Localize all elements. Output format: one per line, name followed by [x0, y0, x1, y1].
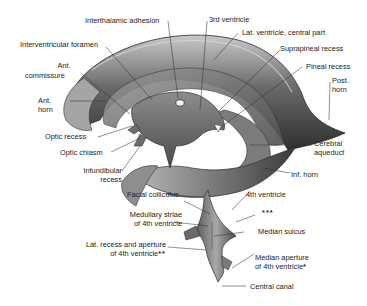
- label-lat-ventricle-central-part: Lat. ventricle, central part: [242, 28, 325, 37]
- label-medullary-striae: Medullary striae of 4th ventricle: [112, 210, 182, 228]
- double-asterisk-mark: **: [158, 249, 166, 258]
- label-median-sulcus: Median sulcus: [258, 227, 305, 236]
- label-cerebral-aqueduct: Cerebral aqueduct: [314, 139, 344, 157]
- single-asterisk-mark: *: [303, 262, 306, 271]
- label-inf-horn: Inf. horn: [291, 170, 318, 179]
- third-ventricle-shape: [128, 92, 225, 168]
- interthalamic-adhesion-hole: [176, 100, 184, 106]
- ventricular-system-diagram: Interthalamic adhesion 3rd ventricle Int…: [0, 0, 367, 306]
- label-ant-horn: Ant. horn: [38, 96, 53, 114]
- label-interventricular-foramen: Interventricular foramen: [20, 40, 98, 49]
- label-suprapineal-recess: Suprapineal recess: [280, 44, 343, 53]
- label-fourth-ventricle: 4th ventricle: [246, 190, 286, 199]
- label-interthalamic-adhesion: Interthalamic adhesion: [85, 16, 159, 25]
- fourth-ventricle-shape: [184, 190, 236, 282]
- label-post-horn: Post. horn: [332, 76, 349, 94]
- label-facial-colliculus: Facial colliculus: [127, 190, 179, 199]
- label-triple-asterisk: ***: [262, 208, 274, 217]
- label-ant-commissure: Ant.: [52, 61, 76, 70]
- label-lat-recess-aperture: Lat. recess and aperture of 4th ventricl…: [80, 240, 166, 258]
- label-optic-chiasm: Optic chiasm: [60, 148, 103, 157]
- label-infundibular-recess: Infundibular recess: [70, 166, 122, 184]
- label-central-canal: Central canal: [250, 282, 294, 291]
- label-ant-commissure-line2: commissure: [25, 71, 65, 80]
- label-optic-recess: Optic recess: [45, 132, 86, 141]
- label-pineal-recess: Pineal recess: [306, 62, 350, 71]
- label-median-aperture: Median aperture of 4th ventricle*: [255, 253, 309, 271]
- label-third-ventricle: 3rd ventricle: [209, 15, 249, 24]
